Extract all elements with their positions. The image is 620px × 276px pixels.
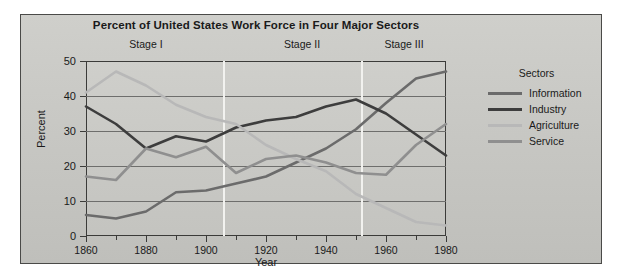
chart-panel: Percent of United States Work Force in F… — [20, 14, 602, 264]
x-axis-tick-label: 1880 — [134, 244, 157, 256]
legend: Sectors InformationIndustryAgricultureSe… — [488, 67, 603, 149]
x-axis-tick — [266, 236, 267, 242]
x-axis-tick — [206, 236, 207, 242]
legend-label: Service — [529, 135, 564, 147]
legend-label: Information — [529, 87, 582, 99]
y-axis-title: Percent — [35, 110, 47, 148]
series-line-agriculture — [86, 72, 446, 226]
x-axis-tick-label: 1900 — [194, 244, 217, 256]
stage-label: Stage III — [364, 38, 444, 50]
legend-swatch-information — [488, 92, 522, 95]
x-axis-tick-label: 1980 — [434, 244, 457, 256]
y-axis-tick-label: 10 — [64, 195, 76, 207]
chart-title: Percent of United States Work Force in F… — [21, 19, 491, 31]
plot-area: 01020304050 1860188019001920194019601980 — [86, 61, 446, 236]
series-lines — [86, 61, 446, 236]
x-axis-tick-label: 1860 — [74, 244, 97, 256]
x-axis-minor-tick — [356, 236, 357, 240]
y-axis-tick-label: 50 — [64, 55, 76, 67]
legend-item: Information — [488, 85, 603, 101]
legend-items: InformationIndustryAgricultureService — [488, 85, 603, 149]
series-line-service — [86, 124, 446, 180]
x-axis-tick-label: 1960 — [374, 244, 397, 256]
y-axis-tick-label: 30 — [64, 125, 76, 137]
x-axis-tick — [86, 236, 87, 242]
y-axis-tick-label: 20 — [64, 160, 76, 172]
legend-swatch-agriculture — [488, 124, 522, 127]
x-axis-minor-tick — [236, 236, 237, 240]
screenshot-root: Percent of United States Work Force in F… — [0, 0, 620, 276]
stage-label: Stage II — [262, 38, 342, 50]
x-axis-minor-tick — [176, 236, 177, 240]
x-axis-tick — [326, 236, 327, 242]
stage-label: Stage I — [106, 38, 186, 50]
x-axis-minor-tick — [296, 236, 297, 240]
legend-item: Service — [488, 133, 603, 149]
legend-swatch-service — [488, 140, 522, 143]
legend-label: Agriculture — [529, 119, 579, 131]
x-axis-tick — [386, 236, 387, 242]
legend-swatch-industry — [488, 108, 522, 111]
legend-title: Sectors — [488, 67, 603, 79]
legend-item: Agriculture — [488, 117, 603, 133]
x-axis-tick — [446, 236, 447, 242]
legend-item: Industry — [488, 101, 603, 117]
legend-label: Industry — [529, 103, 566, 115]
series-line-industry — [86, 100, 446, 156]
x-axis-tick — [146, 236, 147, 242]
x-axis-minor-tick — [116, 236, 117, 240]
x-axis-title: Year — [86, 256, 446, 268]
x-axis-minor-tick — [416, 236, 417, 240]
x-axis-tick-label: 1940 — [314, 244, 337, 256]
y-axis-tick-label: 0 — [70, 230, 76, 242]
x-axis-tick-label: 1920 — [254, 244, 277, 256]
y-axis-tick-label: 40 — [64, 90, 76, 102]
